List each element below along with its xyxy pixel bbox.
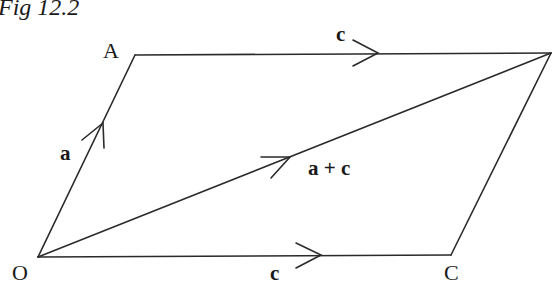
edge-oc [38,255,451,257]
edge-ab [135,53,551,55]
vector-label-c-top: c [336,24,345,45]
arrow-c-top-icon [353,40,378,66]
point-label-c: C [444,262,459,284]
diagonal-ob [38,53,551,257]
vector-label-a: a [60,143,71,164]
point-label-a: A [103,40,119,62]
edge-oa [38,55,135,257]
vector-label-a-plus-c: a + c [308,158,350,179]
vector-label-c-bottom: c [270,263,279,284]
point-label-o: O [12,262,28,284]
parallelogram-diagram [0,0,555,286]
edge-cb [451,53,551,255]
arrow-a-plus-c-icon [261,157,290,178]
